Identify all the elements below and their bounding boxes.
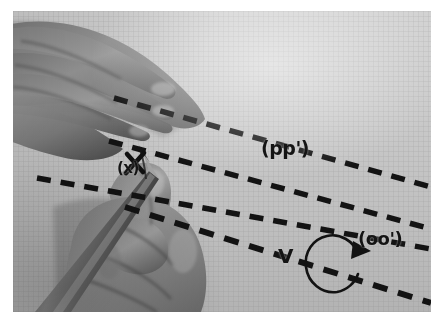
label-v: V [278,244,293,268]
label-oo-prime: (oo') [358,228,402,249]
photograph: (pp') (oo') V (x) [13,11,431,312]
photo-figure: (pp') (oo') V (x) [0,0,435,320]
label-x: (x) [117,159,139,177]
paper-lighting [13,11,431,312]
label-pp-prime: (pp') [261,137,309,159]
